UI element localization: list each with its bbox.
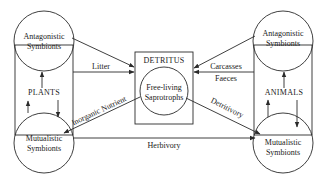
animals-mutualistic-label-2: Symbionts (266, 148, 300, 157)
animals-mutualistic-label-1: Mutualistic (265, 138, 302, 147)
animals-group: Antagonistic Symbionts Mutualistic Symbi… (253, 11, 313, 173)
litter-label: Litter (92, 62, 110, 71)
ecosystem-diagram: Antagonistic Symbionts Mutualistic Symbi… (0, 0, 325, 187)
plants-label: PLANTS (28, 88, 60, 97)
detritivory-label: Detritivory (209, 96, 245, 120)
inorganic-nutrient-label: Inorganic Nutrient (70, 94, 128, 127)
plants-antagonistic-label-1: Antagonistic (24, 32, 65, 41)
detritus-group: DETRITUS Free-living Saprotrophs (135, 52, 193, 124)
faeces-label: Faeces (215, 74, 237, 83)
animals-antagonistic-label-1: Antagonistic (263, 29, 304, 38)
saprotrophs-label-1: Free-living (146, 83, 182, 92)
detritus-label: DETRITUS (143, 56, 184, 65)
plants-mutualistic-symbionts-node (14, 113, 74, 173)
plants-antagonistic-label-2: Symbionts (27, 42, 61, 51)
saprotrophs-label-2: Saprotrophs (145, 93, 184, 102)
plants-antagonistic-symbionts-node (14, 11, 74, 71)
plants-group: Antagonistic Symbionts Mutualistic Symbi… (14, 11, 74, 173)
plants-mutualistic-label-1: Mutualistic (26, 134, 63, 143)
animals-label: ANIMALS (265, 88, 304, 97)
inorganic-nutrient-arrow (64, 97, 140, 133)
animals-antagonistic-label-2: Symbionts (266, 39, 300, 48)
herbivory-label: Herbivory (148, 141, 181, 150)
plants-mutualistic-label-2: Symbionts (27, 144, 61, 153)
carcasses-label: Carcasses (210, 62, 242, 71)
